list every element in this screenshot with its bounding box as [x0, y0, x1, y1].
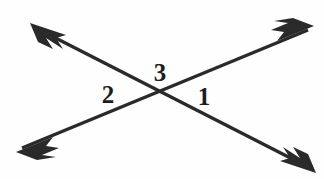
angle-label-3: 3 — [154, 60, 167, 85]
vertical-angles-figure: 2 3 1 — [0, 0, 324, 179]
intersecting-lines-svg — [0, 0, 324, 179]
angle-label-2: 2 — [102, 82, 115, 107]
angle-label-1: 1 — [198, 84, 211, 109]
